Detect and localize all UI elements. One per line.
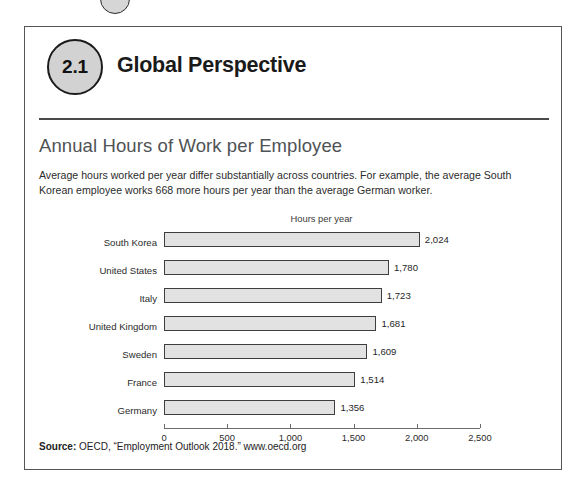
chart-bar: [164, 288, 382, 303]
chart-category-label: Italy: [25, 291, 157, 306]
chart-category-label: United Kingdom: [25, 319, 157, 334]
chart-bar-track: 2,024: [164, 232, 564, 249]
chart-bar-row: United States1,780: [25, 260, 561, 288]
chart-bar-row: Italy1,723: [25, 288, 561, 316]
chart-value-label: 1,609: [372, 346, 396, 357]
chart-axis-title: Hours per year: [164, 213, 479, 224]
chart-bar-track: 1,514: [164, 372, 564, 389]
chart-value-label: 1,681: [381, 318, 405, 329]
x-axis-tick: [227, 424, 228, 428]
chart-bar-track: 1,723: [164, 288, 564, 305]
chart-category-label: Sweden: [25, 347, 157, 362]
chart-bar: [164, 372, 355, 387]
chart-category-label: South Korea: [25, 235, 157, 250]
chart-bar-row: South Korea2,024: [25, 232, 561, 260]
chart-bar-track: 1,609: [164, 344, 564, 361]
x-axis-tick: [164, 424, 165, 428]
x-axis-tick: [480, 424, 481, 428]
source-label: Source:: [39, 441, 76, 452]
chart-value-label: 1,514: [360, 374, 384, 385]
chart-bar: [164, 344, 367, 359]
chart-plot-area: South Korea2,024United States1,780Italy1…: [25, 232, 561, 432]
chart-category-label: Germany: [25, 403, 157, 418]
chart-bar-row: United Kingdom1,681: [25, 316, 561, 344]
section-number-badge: 2.1: [47, 39, 103, 95]
feature-box: 2.1 Global Perspective Annual Hours of W…: [24, 26, 562, 470]
bar-chart: Hours per year South Korea2,024United St…: [25, 213, 561, 433]
chart-bar-row: Sweden1,609: [25, 344, 561, 372]
chart-value-label: 2,024: [425, 234, 449, 245]
chart-value-label: 1,356: [340, 402, 364, 413]
chart-bar: [164, 232, 420, 247]
source-text: OECD, “Employment Outlook 2018.” www.oec…: [79, 441, 306, 452]
x-axis-line: [164, 428, 480, 429]
chart-value-label: 1,780: [394, 262, 418, 273]
x-axis-tick-label: 2,000: [405, 432, 428, 443]
source-note: Source: OECD, “Employment Outlook 2018.”…: [39, 441, 306, 452]
chart-value-label: 1,723: [387, 290, 411, 301]
chart-bar: [164, 400, 335, 415]
chart-bar: [164, 260, 389, 275]
x-axis-tick-label: 2,500: [468, 432, 491, 443]
figure-title: Annual Hours of Work per Employee: [39, 135, 342, 157]
x-axis-tick: [290, 424, 291, 428]
section-header: 2.1 Global Perspective: [25, 27, 561, 119]
partial-circle-decoration: [100, 0, 130, 14]
chart-bar-track: 1,780: [164, 260, 564, 277]
x-axis-tick: [417, 424, 418, 428]
chart-category-label: United States: [25, 263, 157, 278]
section-number: 2.1: [62, 56, 88, 78]
chart-bar-row: France1,514: [25, 372, 561, 400]
section-heading: Global Perspective: [117, 53, 306, 78]
chart-bar-track: 1,356: [164, 400, 564, 417]
x-axis-tick-label: 1,500: [342, 432, 365, 443]
figure-description: Average hours worked per year differ sub…: [39, 168, 547, 198]
chart-bar-track: 1,681: [164, 316, 564, 333]
chart-category-label: France: [25, 375, 157, 390]
x-axis-tick: [354, 424, 355, 428]
header-divider: [39, 118, 549, 120]
chart-bar: [164, 316, 376, 331]
